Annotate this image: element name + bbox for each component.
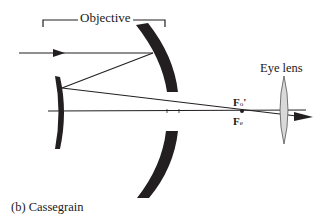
incoming-ray-arrowhead xyxy=(53,49,65,57)
focal-eyepiece-label: Fe xyxy=(233,116,243,127)
eye-lens xyxy=(280,76,288,144)
primary-mirror-lower xyxy=(137,131,178,198)
cassegrain-diagram: Objective Eye lens Fo' Fe (b) Cassegrain xyxy=(0,0,326,219)
focal-point xyxy=(240,109,244,113)
objective-label: Objective xyxy=(78,11,133,24)
focal-objective-label: Fo' xyxy=(233,97,246,108)
optical-axis xyxy=(48,110,306,111)
exit-ray-arrowhead xyxy=(294,112,313,121)
secondary-mirror xyxy=(55,76,64,149)
focal-eyepiece-subscript: e xyxy=(240,119,243,127)
reflected-ray-2 xyxy=(62,88,305,117)
focal-eyepiece-letter: F xyxy=(233,115,240,127)
eye-lens-label: Eye lens xyxy=(260,62,303,75)
figure-caption: (b) Cassegrain xyxy=(11,201,84,214)
focal-objective-prime: ' xyxy=(243,96,246,108)
diagram-graphic xyxy=(0,0,326,219)
reflected-ray-1 xyxy=(62,53,153,88)
focal-objective-letter: F xyxy=(233,96,240,108)
